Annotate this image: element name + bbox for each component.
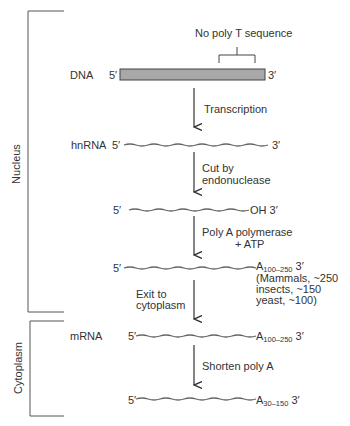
step-shorten: Shorten poly A	[202, 360, 274, 372]
mrna-label: mRNA	[70, 330, 102, 342]
nucleus-label: Nucleus	[10, 144, 22, 184]
polya-strand	[124, 267, 256, 269]
dna-5prime: 5′	[109, 69, 117, 81]
diagram-graphics	[0, 0, 350, 426]
polya-5prime: 5′	[113, 262, 121, 274]
step-transcription: Transcription	[204, 103, 267, 115]
short-strand	[136, 398, 256, 400]
step-polya-1: Poly A polymerase	[202, 226, 293, 238]
note-line-3: yeast, ~100)	[256, 294, 317, 306]
hnrna-3prime: 3′	[272, 139, 280, 151]
short-5prime: 5′	[128, 394, 136, 406]
dna-label: DNA	[70, 69, 93, 81]
cut-5prime: 5′	[113, 204, 121, 216]
cut-strand	[129, 209, 249, 211]
short-tail: A30–150 3′	[256, 394, 300, 410]
annotation-bracket	[219, 55, 255, 63]
annotation-text: No poly T sequence	[195, 27, 292, 39]
step-exit-2: cytoplasm	[136, 299, 186, 311]
mrna-tail: A100–250 3′	[256, 330, 304, 346]
cytoplasm-label: Cytoplasm	[12, 338, 24, 398]
dna-bar	[120, 69, 265, 80]
nucleus-bracket	[28, 11, 64, 312]
hnrna-label: hnRNA	[71, 139, 106, 151]
step-polya-2: + ATP	[235, 238, 264, 250]
mrna-strand	[136, 335, 256, 337]
mrna-5prime: 5′	[128, 330, 136, 342]
dna-3prime: 3′	[268, 69, 276, 81]
step-cut-2: endonuclease	[202, 174, 271, 186]
hnrna-strand	[124, 144, 268, 146]
cut-3prime: OH 3′	[250, 204, 278, 216]
step-cut-1: Cut by	[202, 162, 234, 174]
cytoplasm-bracket	[30, 321, 64, 416]
hnrna-5prime: 5′	[112, 139, 120, 151]
